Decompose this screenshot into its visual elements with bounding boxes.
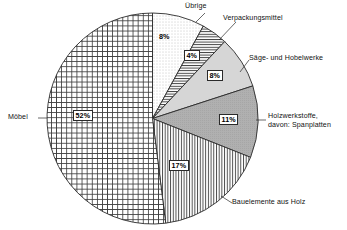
slice-value-moebel: 52% bbox=[73, 110, 93, 121]
leader-line-bauelemente bbox=[221, 196, 232, 203]
slice-label-saege-und-hobelwerke: Säge- und Hobelwerke bbox=[249, 54, 323, 63]
slice-label-uebrige: Übrige bbox=[185, 2, 207, 11]
slice-value-verpackungsmittel: 4% bbox=[184, 50, 200, 61]
slice-value-holzwerkstoffe: 11% bbox=[219, 114, 238, 125]
slice-label-bauelemente-aus-holz: Bauelemente aus Holz bbox=[232, 198, 305, 207]
slice-label-moebel: Möbel bbox=[8, 113, 28, 122]
slice-label-holzwerkstoffe: Holzwerkstoffe,davon: Spanplatten bbox=[268, 112, 331, 129]
slice-value-saege-und-hobelwerke: 8% bbox=[207, 70, 223, 81]
leader-line-uebrige bbox=[196, 13, 205, 22]
slice-value-uebrige: 8% bbox=[159, 33, 170, 41]
leader-line-verpackungsmittel bbox=[219, 22, 236, 40]
pie-slice-moebel[interactable] bbox=[47, 13, 166, 224]
slice-value-bauelemente-aus-holz: 17% bbox=[169, 160, 189, 171]
slice-label-holzwerkstoffe-line2: davon: Spanplatten bbox=[268, 121, 331, 129]
pie-chart-figure: Übrige Verpackungsmittel Säge- und Hobel… bbox=[0, 0, 347, 230]
slice-label-verpackungsmittel: Verpackungsmittel bbox=[223, 14, 283, 23]
slice-label-holzwerkstoffe-line1: Holzwerkstoffe, bbox=[268, 112, 318, 120]
